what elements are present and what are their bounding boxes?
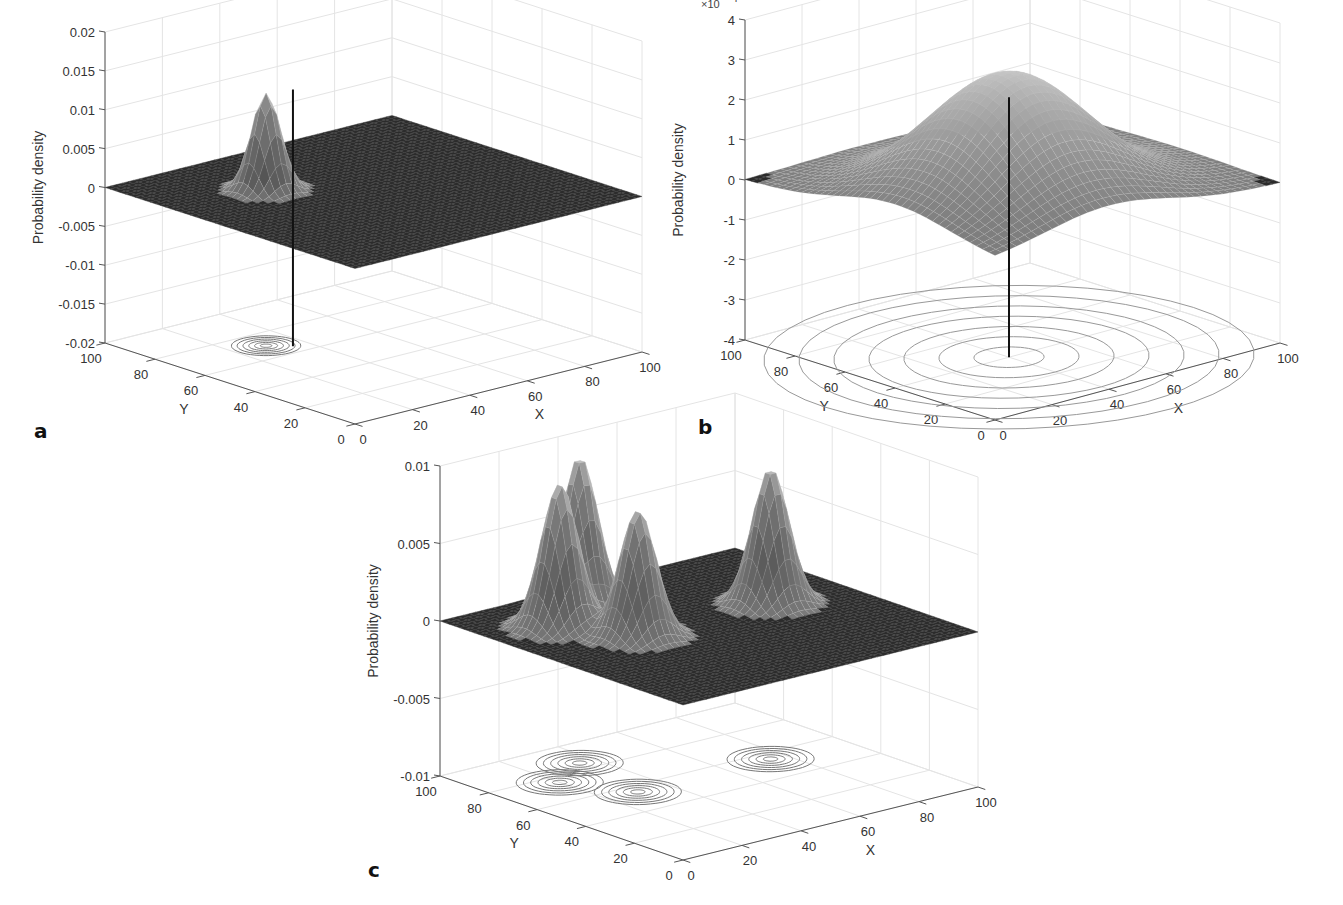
surface-mesh (440, 461, 978, 706)
grid-line (440, 703, 978, 787)
y-tick-label: 100 (415, 784, 437, 799)
contour-ring (763, 757, 778, 761)
x-tick (978, 787, 985, 790)
y-tick-label: 40 (565, 834, 579, 849)
x-tick (683, 860, 690, 863)
x-axis-title: X (866, 842, 876, 858)
contour-ring (631, 790, 646, 794)
y-tick-label: 0 (665, 868, 672, 883)
y-tick (674, 860, 683, 862)
x-tick-label: 20 (743, 853, 757, 868)
x-tick-label: 40 (802, 839, 816, 854)
x-tick (742, 845, 749, 848)
x-tick-label: 60 (861, 824, 875, 839)
y-tick (577, 826, 586, 828)
z-tick (434, 698, 440, 699)
y-tick (528, 810, 537, 812)
y-tick-label: 60 (516, 818, 530, 833)
z-tick (434, 775, 440, 776)
y-tick-label: 80 (467, 801, 481, 816)
contour-ring (565, 759, 594, 768)
x-tick (919, 802, 926, 805)
x-tick-label: 80 (920, 810, 934, 825)
grid-line (676, 718, 919, 802)
z-tick (434, 620, 440, 621)
grid-line (440, 393, 978, 477)
z-tick (434, 465, 440, 466)
x-tick (801, 831, 808, 834)
z-tick-label: 0.01 (405, 459, 430, 474)
panel-letter-c: c (368, 858, 380, 882)
z-tick-label: 0.005 (397, 537, 430, 552)
y-tick (431, 776, 440, 778)
chart-c-svg: 020406080100020406080100-0.01-0.00500.00… (0, 0, 1343, 905)
y-tick-label: 20 (613, 851, 627, 866)
grid-line (634, 770, 929, 843)
grid-line (440, 471, 978, 555)
y-tick (480, 793, 489, 795)
contour-ring (756, 755, 785, 764)
z-tick-label: 0 (423, 614, 430, 629)
z-tick (434, 543, 440, 544)
contour-ring (572, 761, 587, 765)
y-tick (626, 843, 635, 845)
grid-line (489, 720, 784, 793)
x-tick-label: 100 (975, 795, 997, 810)
z-tick-label: -0.005 (393, 692, 430, 707)
grid-line (558, 747, 801, 831)
grid-line (586, 753, 881, 826)
z-tick-label: -0.01 (400, 769, 430, 784)
y-axis-title: Y (510, 835, 520, 851)
z-axis-title: Probability density (365, 564, 381, 678)
contour-ring (623, 788, 652, 796)
panel-c: 020406080100020406080100-0.01-0.00500.00… (0, 0, 1343, 905)
x-tick (860, 816, 867, 819)
x-tick-label: 0 (687, 868, 694, 883)
